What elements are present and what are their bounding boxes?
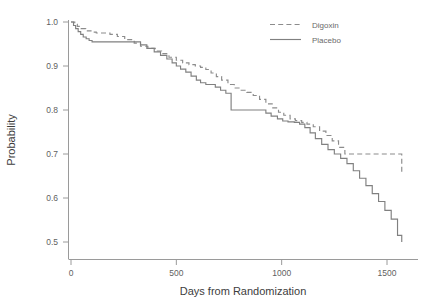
legend-label-digoxin: Digoxin [312,21,339,30]
y-tick-label: 0.7 [46,149,58,159]
y-tick-label: 1.0 [46,17,58,27]
x-axis-title: Days from Randomization [180,285,307,297]
x-tick-label: 1500 [378,268,397,278]
y-axis-title: Probability [5,114,17,166]
y-tick-label: 0.9 [46,61,58,71]
figure-background [0,0,432,304]
x-tick-label: 0 [69,268,74,278]
plot-canvas: 0.50.60.70.80.91.0 050010001500 DigoxinP… [0,0,432,304]
x-tick-label: 1000 [272,268,291,278]
y-tick-label: 0.8 [46,105,58,115]
survival-plot-figure: 0.50.60.70.80.91.0 050010001500 DigoxinP… [0,0,432,304]
x-tick-label: 500 [169,268,183,278]
legend-label-placebo: Placebo [312,36,341,45]
y-tick-label: 0.6 [46,193,58,203]
y-tick-label: 0.5 [46,237,58,247]
